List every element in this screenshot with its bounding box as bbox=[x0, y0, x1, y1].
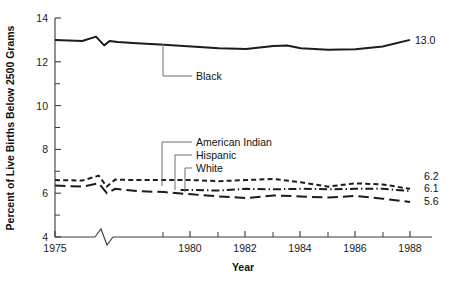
y-axis-title: Percent of Live Births Below 2500 Grams bbox=[4, 25, 16, 230]
series-label-black: Black bbox=[196, 70, 222, 82]
y-tick-label-10: 10 bbox=[36, 100, 48, 112]
y-tick-label-6: 6 bbox=[42, 187, 48, 199]
y-tick-label-14: 14 bbox=[36, 12, 48, 24]
x-tick-label-1984: 1984 bbox=[288, 242, 312, 254]
value-label-black: 13.0 bbox=[415, 34, 436, 46]
x-tick-label-1975: 1975 bbox=[43, 242, 67, 254]
chart-container: Percent of Live Births Below 2500 Grams … bbox=[0, 0, 455, 287]
x-axis-title: Year bbox=[232, 261, 254, 273]
value-label-white: 5.6 bbox=[424, 195, 439, 207]
x-tick-label-1986: 1986 bbox=[343, 242, 367, 254]
y-tick-label-8: 8 bbox=[42, 143, 48, 155]
x-tick-label-1980: 1980 bbox=[178, 242, 202, 254]
series-label-white: White bbox=[196, 162, 223, 174]
x-tick-label-1982: 1982 bbox=[233, 242, 257, 254]
y-tick-label-12: 12 bbox=[36, 56, 48, 68]
series-label-hispanic: Hispanic bbox=[196, 149, 236, 161]
x-tick-label-1988: 1988 bbox=[398, 242, 422, 254]
value-label-american-indian: 6.2 bbox=[424, 170, 439, 182]
series-label-american-indian: American Indian bbox=[196, 136, 272, 148]
value-label-hispanic: 6.1 bbox=[424, 182, 439, 194]
low-birthweight-line-chart: Percent of Live Births Below 2500 Grams … bbox=[0, 0, 455, 287]
